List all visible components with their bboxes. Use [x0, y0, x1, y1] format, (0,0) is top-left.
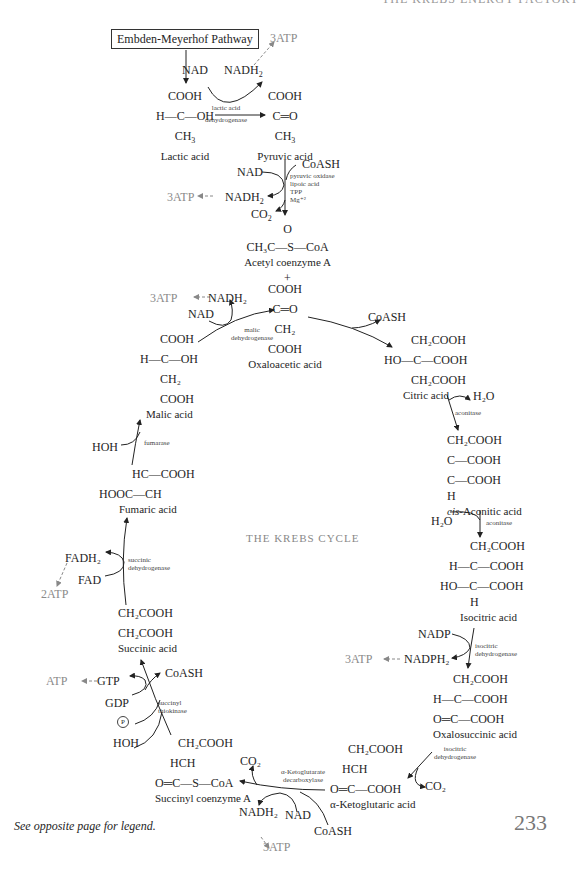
atp-isocitric: 3ATP — [345, 652, 372, 666]
aconitase-2: aconitase — [486, 519, 512, 527]
atp-ketoglutaric: 3ATP — [263, 840, 290, 854]
nad-malic: NAD — [188, 307, 214, 321]
hoh-succinyl: HOH — [113, 736, 139, 750]
isocitric-acid: CH₂COOH H—C—COOH HO—C—COOH H Isocitric a… — [440, 539, 560, 624]
nadp: NADP — [418, 627, 451, 641]
atp-succinyl: ATP — [46, 674, 67, 688]
h2o-2: H₂O — [431, 514, 453, 528]
malic-acid: COOH H—C—OH CH₂ COOH Malic acid — [140, 332, 210, 421]
atp-2: 3ATP — [167, 190, 194, 204]
coash-citric: CoASH — [368, 310, 406, 324]
h2o-1: H₂O — [473, 389, 495, 403]
nadph2: NADPH₂ — [404, 652, 450, 666]
succinic-acid: CH₂COOH CH₂COOH Succinic acid — [118, 606, 198, 655]
nad-1: NAD — [182, 63, 208, 77]
coash-succinyl: CoASH — [165, 666, 203, 680]
succinyl-thiokinase: succinyl thiokinase — [158, 699, 187, 715]
hoh-fumaric: HOH — [92, 440, 118, 454]
running-header: THE KREBS ENERGY FACTORY — [382, 0, 579, 7]
acetyl-coa: O CH₃C—S—CoA Acetyl coenzyme A + — [240, 222, 335, 285]
isocitric-dh-1: isocitric dehydrogenase — [475, 642, 517, 658]
citric-acid: CH₂COOH HO—C—COOH CH₂COOH Citric acid — [384, 333, 484, 402]
coash-ketoglutaric: CoASH — [314, 824, 352, 838]
nadh2-1: NADH2 — [224, 63, 263, 82]
page-number: 233 — [514, 810, 547, 836]
ketoglutaric-acid: CH₂COOH HCH O═C—COOH α-Ketoglutaric acid — [330, 742, 440, 811]
succinic-dh: succinic dehydrogenase — [128, 556, 170, 572]
cis-aconitic-acid: CH₂COOH C—COOH C—COOH H cis-Aconitic aci… — [447, 433, 557, 518]
aconitase-1: aconitase — [455, 409, 481, 417]
nad-2: NAD — [237, 165, 263, 179]
nadh2-malic: NADH₂ — [208, 291, 247, 305]
succinyl-coa: CH₂COOH HCH O═C—S—CoA Succinyl coenzyme … — [155, 736, 265, 805]
cycle-title: THE KREBS CYCLE — [246, 532, 359, 544]
oxalosuccinic-acid: CH₂COOH H—C—COOH O═C—COOH Oxalosuccinic … — [433, 672, 553, 741]
gdp: GDP — [105, 696, 129, 710]
nadh2-ketoglutaric: NADH₂ — [239, 805, 278, 819]
atp-succinic: 2ATP — [41, 587, 68, 601]
phosphate-icon: P — [117, 716, 129, 728]
pyruvic-acid: COOH C═O CH3 Pyruvic acid — [250, 89, 320, 163]
fumaric-acid: HC—COOH HOOC—CH Fumaric acid — [99, 467, 199, 516]
fad: FAD — [78, 573, 101, 587]
pyruvic-cofactors: pyruvic oxidase lipoic acid TPP Mg⁺² — [290, 172, 335, 204]
lactic-acid: COOH H—C—OH CH3 Lactic acid — [145, 89, 225, 163]
coash-1: CoASH — [302, 157, 340, 171]
nad-ketoglutaric: NAD — [285, 808, 311, 822]
emp-box: Embden-Meyerhof Pathway — [111, 29, 259, 49]
legend-note: See opposite page for legend. — [14, 819, 156, 834]
ketoglutarate-enzyme: α-Ketoglutarate decarboxylase — [268, 768, 338, 784]
atp-malic: 3ATP — [150, 291, 177, 305]
gtp: GTP — [97, 674, 120, 688]
ldh-enzyme: lactic acid dehydrogenase — [196, 104, 256, 124]
fumarase: fumarase — [144, 439, 170, 447]
fadh2: FADH₂ — [65, 551, 101, 565]
malic-enzyme: malic dehydrogenase — [222, 326, 282, 342]
atp-1: 3ATP — [270, 31, 297, 45]
